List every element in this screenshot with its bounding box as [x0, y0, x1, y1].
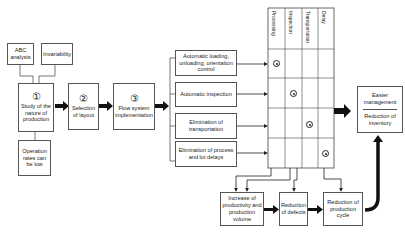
invariability-box: Invariability	[41, 43, 73, 65]
matrix-mark-icon	[306, 121, 313, 128]
abc-analysis-box: ABC analysis	[7, 43, 34, 65]
easier-management-label: Easier management	[359, 92, 401, 106]
step-3-label: Flow system implementation	[115, 105, 153, 119]
results-divider	[363, 109, 397, 110]
matrix-mark-icon	[273, 60, 280, 67]
matrix-header-transportation: Transportation	[305, 11, 311, 43]
measure-label: Automatic inspection	[180, 91, 232, 98]
measure-label: Elimination of process and lot delays	[177, 147, 235, 161]
measure-box-2: Automatic inspection	[175, 82, 237, 107]
step-3-box: ③ Flow system implementation	[113, 83, 155, 130]
effect-box-defects: Reduction of defects	[279, 192, 308, 226]
measure-box-1: Automatic loading, unloading, orientatio…	[175, 50, 237, 76]
effect-label: Reduction of defects	[281, 202, 306, 216]
operation-rates-box: Operation rates can be low	[18, 140, 51, 176]
measure-label: Automatic loading, unloading, orientatio…	[177, 53, 235, 74]
effect-label: Increase of productivity and production …	[222, 195, 262, 223]
step-2-label: Selection of layout	[70, 105, 97, 119]
matrix-header-processing: Processing	[271, 11, 277, 36]
abc-analysis-label: ABC analysis	[9, 47, 32, 61]
matrix-header-inspection: Inspection	[288, 11, 294, 34]
measure-label: Elimination of transportation	[177, 119, 235, 133]
step-3-number: ③	[130, 94, 139, 104]
results-box: Easier management Reduction of inventory	[357, 86, 403, 133]
reduction-inventory-label: Reduction of inventory	[359, 113, 401, 127]
step-1-number: ①	[32, 92, 41, 102]
step-1-label: Study of the nature of production	[20, 103, 52, 124]
effect-label: Reduction of production cycle	[325, 199, 361, 220]
effect-box-productivity: Increase of productivity and production …	[220, 192, 264, 226]
measure-box-4: Elimination of process and lot delays	[175, 141, 237, 167]
matrix-mark-icon	[290, 90, 297, 97]
effect-box-cycle: Reduction of production cycle	[323, 192, 363, 226]
measure-box-3: Elimination of transportation	[175, 113, 237, 139]
invariability-label: Invariability	[43, 51, 71, 58]
matrix-header-delay: Delay	[321, 11, 327, 24]
operation-rates-label: Operation rates can be low	[20, 148, 49, 169]
step-2-number: ②	[79, 94, 88, 104]
matrix-mark-icon	[322, 150, 329, 157]
step-2-box: ② Selection of layout	[68, 83, 99, 130]
step-1-box: ① Study of the nature of production	[18, 83, 54, 132]
